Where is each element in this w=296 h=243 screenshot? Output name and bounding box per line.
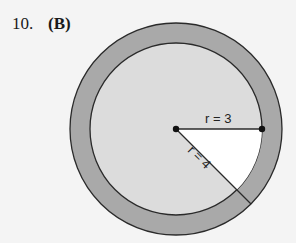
inner-radius-label: r = 3 xyxy=(205,111,231,126)
center-point xyxy=(173,126,179,132)
inner-edge-point xyxy=(259,126,265,132)
concentric-circles-figure: r = 3 r = 4 xyxy=(0,0,296,243)
